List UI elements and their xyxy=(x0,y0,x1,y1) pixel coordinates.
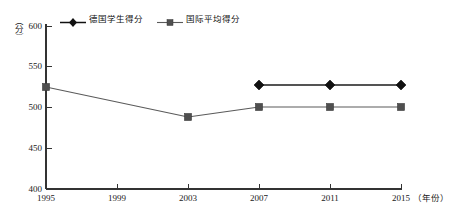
x-axis-unit-label: （年份） xyxy=(413,193,449,203)
y-tick-label: 450 xyxy=(29,143,43,153)
chart-canvas: 600 550 500 450 400 1995 1999 2003 2007 … xyxy=(0,0,455,218)
data-point-marker xyxy=(327,104,334,111)
y-tick-label: 550 xyxy=(29,61,43,71)
y-axis-ticks xyxy=(46,26,52,189)
y-tick-label: 500 xyxy=(29,102,43,112)
series-germany xyxy=(254,80,406,90)
x-axis-ticks xyxy=(46,184,401,189)
x-tick-label: 1995 xyxy=(37,193,56,203)
data-point-marker xyxy=(398,104,405,111)
x-axis-tick-labels: 1995 1999 2003 2007 2011 2015 xyxy=(37,193,411,203)
x-tick-label: 2003 xyxy=(179,193,198,203)
x-tick-label: 2007 xyxy=(250,193,269,203)
data-point-marker xyxy=(256,104,263,111)
data-point-marker xyxy=(185,114,192,121)
series-line-international xyxy=(46,87,401,117)
x-tick-label: 2011 xyxy=(321,193,339,203)
y-axis-tick-labels: 600 550 500 450 400 xyxy=(29,21,43,194)
data-point-marker xyxy=(396,80,406,90)
line-chart-figure: （分） 德国学生得分 国际平均得分 xyxy=(0,0,455,218)
x-tick-label: 1999 xyxy=(108,193,127,203)
data-point-marker xyxy=(325,80,335,90)
data-point-marker xyxy=(43,84,50,91)
series-international xyxy=(43,84,405,121)
x-tick-label: 2015 xyxy=(392,193,411,203)
data-point-marker xyxy=(254,80,264,90)
y-tick-label: 600 xyxy=(29,21,43,31)
